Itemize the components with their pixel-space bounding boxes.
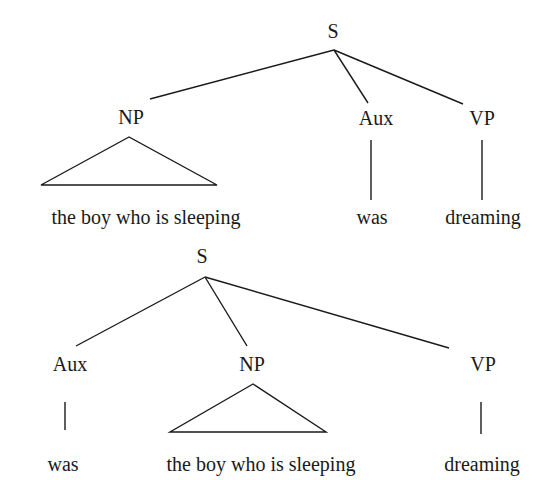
tree1-leaf-vp: dreaming (445, 206, 521, 228)
tree2-node-vp: VP (470, 353, 496, 375)
tree2-leaf-vp: dreaming (444, 453, 520, 475)
np-triangle (41, 137, 217, 185)
tree1-root-s: S (327, 20, 338, 42)
tree2-node-aux: Aux (53, 353, 87, 375)
tree1-leaf-aux: was (356, 206, 387, 228)
tree1-node-np: NP (118, 106, 144, 128)
tree1-node-aux: Aux (359, 107, 393, 129)
branch-s-vp (334, 50, 463, 104)
tree2-node-np: NP (239, 353, 265, 375)
tree2-root-s: S (196, 245, 207, 267)
tree2-leaf-aux: was (47, 453, 78, 475)
branch-s-np (150, 50, 334, 99)
tree1-node-vp: VP (469, 107, 495, 129)
tree2-leaf-np: the boy who is sleeping (167, 453, 356, 475)
tree1-leaf-np: the boy who is sleeping (52, 206, 241, 228)
branch-s-aux (334, 50, 368, 103)
tree-lines (0, 0, 558, 480)
np-triangle-2 (170, 384, 326, 432)
branch-s-aux-2 (76, 277, 205, 346)
